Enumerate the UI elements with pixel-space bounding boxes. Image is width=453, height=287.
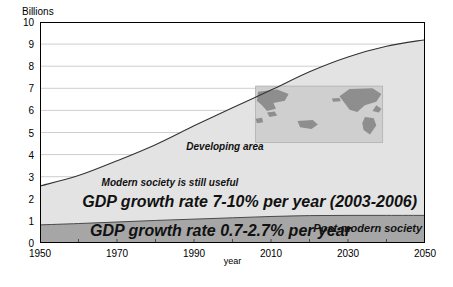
- y-tick-label-2: 2: [2, 193, 34, 204]
- x-axis-title: year: [224, 256, 242, 266]
- y-axis-title: Billions: [22, 6, 54, 17]
- y-tick-label-9: 9: [2, 39, 34, 50]
- x-tick-label-1950: 1950: [29, 248, 51, 259]
- annotation-post-modern-society: Post-modern society: [313, 222, 422, 234]
- x-tick-label-2050: 2050: [414, 248, 436, 259]
- y-tick-label-8: 8: [2, 61, 34, 72]
- annotation-gdp-developing: GDP growth rate 7-10% per year (2003-200…: [82, 193, 417, 211]
- annotation-gdp-postmodern: GDP growth rate 0.7-2.7% per year: [90, 222, 351, 240]
- y-tick-label-1: 1: [2, 215, 34, 226]
- y-tick-label-7: 7: [2, 83, 34, 94]
- x-tick-label-2030: 2030: [337, 248, 359, 259]
- population-chart: Billions 012345678910 195019701990201020…: [0, 0, 453, 287]
- y-tick-label-10: 10: [2, 17, 34, 28]
- world-map-inset: [256, 86, 383, 142]
- y-tick-label-5: 5: [2, 127, 34, 138]
- annotation-developing-area: Developing area: [186, 141, 263, 152]
- y-tick-label-0: 0: [2, 238, 34, 249]
- y-tick-label-4: 4: [2, 149, 34, 160]
- x-tick-label-1990: 1990: [183, 248, 205, 259]
- x-tick-label-2010: 2010: [260, 248, 282, 259]
- y-tick-label-6: 6: [2, 105, 34, 116]
- y-tick-label-3: 3: [2, 171, 34, 182]
- annotation-modern-society: Modern society is still useful: [102, 177, 239, 188]
- x-tick-label-1970: 1970: [106, 248, 128, 259]
